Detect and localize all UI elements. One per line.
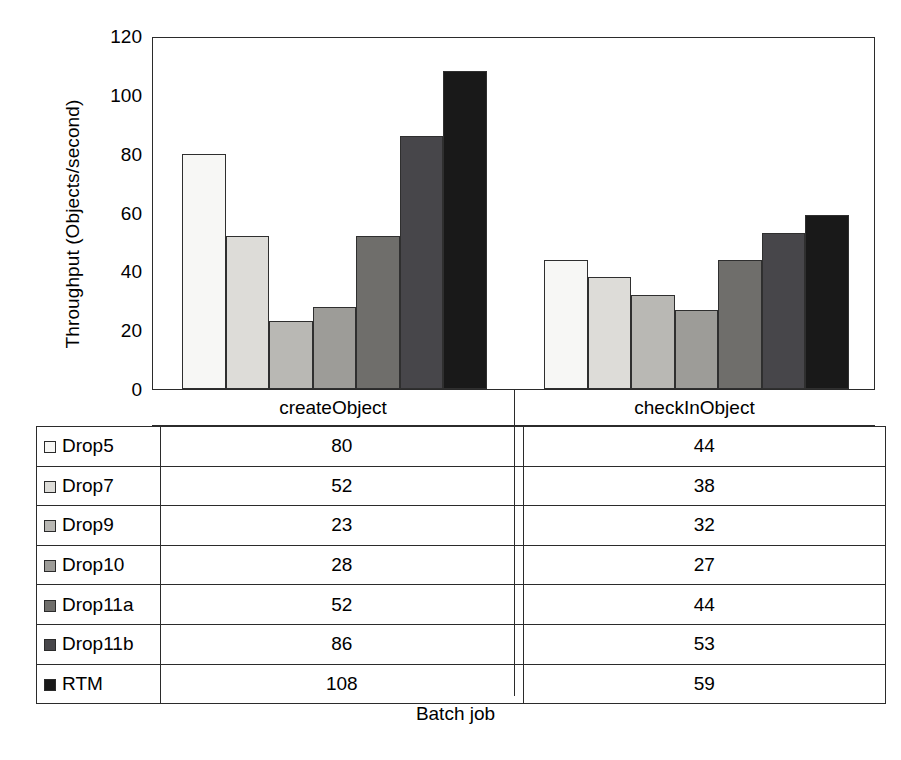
legend-cell-drop5: Drop5 <box>37 427 161 467</box>
bar-series-layer <box>152 37 875 390</box>
table-row: Drop75238 <box>37 466 886 506</box>
table-row: Drop11b8653 <box>37 624 886 664</box>
legend-cell-drop11a: Drop11a <box>37 585 161 625</box>
bar-drop7-createobject <box>226 236 270 389</box>
legend-cell-drop9: Drop9 <box>37 506 161 546</box>
legend-label: Drop10 <box>62 554 124 575</box>
table-cell-drop9-checkinobject: 32 <box>523 506 886 546</box>
legend-swatch-icon <box>44 520 56 532</box>
legend-cell-drop10: Drop10 <box>37 545 161 585</box>
y-tick-label-120: 120 <box>62 27 142 47</box>
y-tick-label-80: 80 <box>62 145 142 165</box>
table-cell-rtm-checkinobject: 59 <box>523 664 886 704</box>
legend-label: Drop11a <box>62 594 133 615</box>
table-cell-drop10-checkinobject: 27 <box>523 545 886 585</box>
bar-drop9-checkinobject <box>631 295 675 389</box>
bar-rtm-checkinobject <box>805 215 849 389</box>
table-cell-drop10-createobject: 28 <box>161 545 524 585</box>
bar-drop11b-createobject <box>400 136 444 389</box>
legend-label: Drop7 <box>62 475 114 496</box>
legend-swatch-icon <box>44 481 56 493</box>
bar-drop5-createobject <box>182 154 226 389</box>
category-label-createobject: createObject <box>152 390 514 426</box>
x-axis-title: Batch job <box>36 703 875 725</box>
legend-swatch-icon <box>44 600 56 612</box>
table-row: Drop92332 <box>37 506 886 546</box>
table-cell-drop11b-checkinobject: 53 <box>523 624 886 664</box>
bar-drop11a-createobject <box>356 236 400 389</box>
legend-label: Drop9 <box>62 514 114 535</box>
table-cell-drop11a-createobject: 52 <box>161 585 524 625</box>
table-row: Drop102827 <box>37 545 886 585</box>
bar-rtm-createobject <box>443 71 487 389</box>
y-tick-label-20: 20 <box>62 321 142 341</box>
table-row: RTM10859 <box>37 664 886 704</box>
y-tick-label-0: 0 <box>62 380 142 400</box>
table-row: Drop58044 <box>37 427 886 467</box>
legend-swatch-icon <box>44 679 56 691</box>
bar-drop11b-checkinobject <box>762 233 806 389</box>
y-tick-label-100: 100 <box>62 86 142 106</box>
table-cell-drop5-createobject: 80 <box>161 427 524 467</box>
table-cell-drop11a-checkinobject: 44 <box>523 585 886 625</box>
table-cell-drop7-checkinobject: 38 <box>523 466 886 506</box>
legend-swatch-icon <box>44 639 56 651</box>
legend-swatch-icon <box>44 441 56 453</box>
y-tick-label-60: 60 <box>62 204 142 224</box>
y-tick-label-40: 40 <box>62 262 142 282</box>
legend-label: RTM <box>62 673 103 694</box>
legend-label: Drop5 <box>62 435 114 456</box>
bar-drop9-createobject <box>269 321 313 389</box>
bar-drop11a-checkinobject <box>718 260 762 389</box>
legend-cell-rtm: RTM <box>37 664 161 704</box>
legend-cell-drop11b: Drop11b <box>37 624 161 664</box>
data-table: Drop58044Drop75238Drop92332Drop102827Dro… <box>36 426 886 704</box>
bar-drop7-checkinobject <box>588 277 632 389</box>
table-row: Drop11a5244 <box>37 585 886 625</box>
table-cell-drop7-createobject: 52 <box>161 466 524 506</box>
bar-drop5-checkinobject <box>544 260 588 389</box>
legend-label: Drop11b <box>62 633 133 654</box>
bar-drop10-createobject <box>313 307 357 389</box>
bar-drop10-checkinobject <box>675 310 719 389</box>
y-axis-tick-labels: 020406080100120 <box>62 27 142 400</box>
table-cell-drop9-createobject: 23 <box>161 506 524 546</box>
table-cell-rtm-createobject: 108 <box>161 664 524 704</box>
legend-swatch-icon <box>44 560 56 572</box>
table-cell-drop11b-createobject: 86 <box>161 624 524 664</box>
category-label-checkinobject: checkInObject <box>514 390 875 426</box>
chart-figure: Throughput (Objects/second) 020406080100… <box>0 0 901 760</box>
legend-cell-drop7: Drop7 <box>37 466 161 506</box>
table-cell-drop5-checkinobject: 44 <box>523 427 886 467</box>
